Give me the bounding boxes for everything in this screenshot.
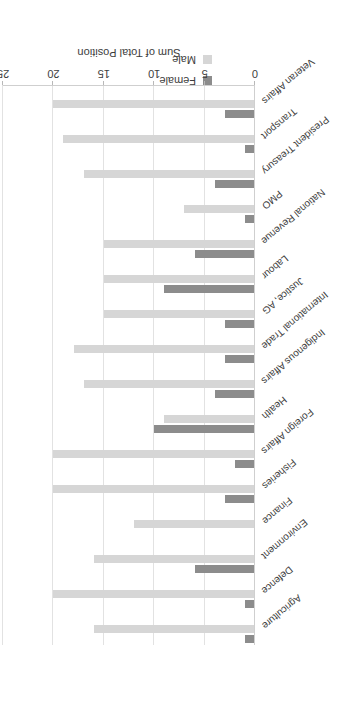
- bar-male[interactable]: [94, 625, 255, 633]
- category-label: Finance: [260, 496, 294, 527]
- bar-group: [3, 190, 255, 225]
- bar-male[interactable]: [84, 170, 255, 178]
- axis-tick-label: 25: [0, 68, 9, 79]
- bar-male[interactable]: [104, 275, 255, 283]
- bar-female[interactable]: [195, 565, 255, 573]
- axis-tick-mark: [52, 81, 53, 85]
- bar-male[interactable]: [74, 345, 255, 353]
- bar-group: [3, 155, 255, 190]
- bar-male[interactable]: [184, 205, 255, 213]
- bar-male[interactable]: [84, 380, 255, 388]
- axis-tick-mark: [204, 81, 205, 85]
- bar-male[interactable]: [63, 135, 255, 143]
- category-label: Agriculture: [260, 593, 303, 631]
- bar-group: [3, 575, 255, 610]
- bar-group: [3, 540, 255, 575]
- category-label: PMO: [260, 189, 284, 211]
- bar-group: [3, 470, 255, 505]
- bars-layer: [3, 85, 255, 645]
- axis-tick-mark: [153, 81, 154, 85]
- axis-tick-label: 20: [47, 68, 59, 79]
- bar-male[interactable]: [53, 485, 255, 493]
- bar-group: [3, 400, 255, 435]
- bar-male[interactable]: [104, 310, 255, 318]
- bar-male[interactable]: [53, 450, 255, 458]
- bar-female[interactable]: [235, 460, 255, 468]
- bar-female[interactable]: [164, 285, 255, 293]
- axis-tick-label: 0: [252, 68, 258, 79]
- bar-female[interactable]: [225, 495, 255, 503]
- bar-female[interactable]: [215, 180, 255, 188]
- bar-female[interactable]: [225, 110, 255, 118]
- axis-tick-mark: [103, 81, 104, 85]
- axis-tick-label: 10: [148, 68, 160, 79]
- bar-male[interactable]: [104, 240, 255, 248]
- category-label: Health: [260, 395, 289, 421]
- bar-group: [3, 610, 255, 645]
- category-label: Fisheries: [260, 458, 298, 492]
- axis-title: Sum of Total Position: [3, 47, 255, 59]
- bar-female[interactable]: [215, 390, 255, 398]
- bar-group: [3, 365, 255, 400]
- value-axis-line: [254, 85, 255, 645]
- category-label: Labour: [260, 254, 290, 282]
- value-axis: 0510152025: [3, 61, 255, 81]
- bar-female[interactable]: [225, 320, 255, 328]
- category-label: Veteran Affairs: [260, 57, 316, 106]
- bar-group: [3, 505, 255, 540]
- axis-tick-label: 5: [202, 68, 208, 79]
- bar-group: [3, 295, 255, 330]
- axis-tick-mark: [254, 81, 255, 85]
- bar-chart: Female Male 0510152025 Sum of Total Posi…: [0, 0, 343, 721]
- bar-male[interactable]: [53, 590, 255, 598]
- bar-group: [3, 435, 255, 470]
- plot-area: [3, 85, 255, 645]
- axis-tick-label: 15: [98, 68, 110, 79]
- bar-male[interactable]: [53, 100, 255, 108]
- chart-figure: Female Male 0510152025 Sum of Total Posi…: [0, 0, 343, 721]
- category-label: Transport: [260, 106, 299, 141]
- bar-male[interactable]: [134, 520, 255, 528]
- bar-group: [3, 85, 255, 120]
- bar-female[interactable]: [195, 250, 255, 258]
- axis-tick-mark: [2, 81, 3, 85]
- bar-group: [3, 330, 255, 365]
- bar-male[interactable]: [94, 555, 255, 563]
- category-labels: AgricultureDefenceEnvironmentFinanceFish…: [257, 85, 343, 645]
- bar-group: [3, 260, 255, 295]
- bar-male[interactable]: [164, 415, 255, 423]
- category-label: Defence: [260, 565, 295, 597]
- category-axis-line: [3, 85, 255, 86]
- bar-female[interactable]: [154, 425, 255, 433]
- bar-group: [3, 120, 255, 155]
- bar-female[interactable]: [225, 355, 255, 363]
- bar-group: [3, 225, 255, 260]
